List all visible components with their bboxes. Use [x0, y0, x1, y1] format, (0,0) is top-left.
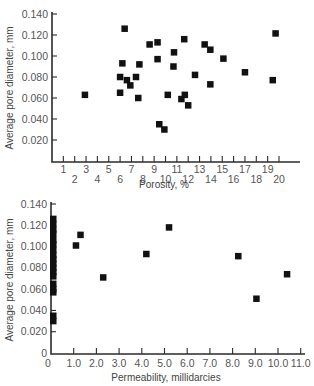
data-point: [270, 77, 277, 84]
data-point: [135, 95, 142, 102]
y-tick-label: 0.020: [22, 134, 48, 146]
data-point: [192, 72, 199, 79]
data-point: [154, 39, 161, 46]
y-tick-label: 0.020: [21, 325, 47, 337]
x-tick-label: 2.0: [89, 357, 104, 369]
x-tick-label: 7: [129, 163, 135, 175]
y-tick-label: 0.060: [22, 92, 48, 104]
x-tick-label: 16: [228, 173, 240, 185]
y-tick-label: 0.040: [22, 113, 48, 125]
porosity-y-axis-label: Average pore diameter, mm: [4, 26, 15, 149]
data-point: [170, 63, 177, 70]
data-point: [146, 41, 153, 48]
permeability-points: [50, 216, 290, 325]
data-point: [50, 318, 57, 325]
y-tick-label: 0.100: [21, 240, 47, 252]
y-tick-label: 0.120: [21, 219, 47, 231]
x-tick-label: 9.0: [248, 357, 263, 369]
porosity-scatter-plot: 0.0200.0400.0600.0800.1000.1200.140 1234…: [4, 8, 300, 191]
x-tick-label: 6: [117, 173, 123, 185]
porosity-x-axis-label: Porosity, %: [139, 179, 189, 190]
x-tick-label: 1: [60, 163, 66, 175]
x-tick-label: 13: [194, 163, 206, 175]
x-tick-label: 4: [94, 173, 100, 185]
data-point: [207, 81, 214, 88]
y-tick-label: 0.140: [21, 198, 47, 210]
porosity-points: [82, 25, 279, 132]
x-tick-label: 8.0: [225, 357, 240, 369]
data-point: [50, 231, 57, 238]
permeability-y-axis-label: Average pore diameter, mm: [4, 218, 15, 341]
x-tick-label: 1.0: [66, 357, 81, 369]
data-point: [143, 251, 150, 258]
y-tick-label: 0.080: [22, 71, 48, 83]
y-tick-label: 0.120: [22, 29, 48, 41]
x-tick-label: 2: [72, 173, 78, 185]
data-point: [117, 74, 124, 81]
data-point: [165, 92, 172, 99]
data-point: [50, 273, 57, 280]
x-tick-label: 11.0: [291, 357, 311, 369]
x-tick-label: 17: [239, 163, 251, 175]
x-tick-label: 0: [45, 357, 51, 369]
permeability-x-ticks: 01.02.03.04.05.06.07.08.09.010.011.0: [45, 348, 311, 369]
x-tick-label: 11: [171, 163, 182, 175]
x-tick-label: 4.0: [134, 357, 149, 369]
data-point: [235, 253, 242, 260]
data-point: [207, 46, 214, 53]
data-point: [220, 55, 227, 62]
x-tick-label: 18: [250, 173, 262, 185]
data-point: [201, 41, 208, 48]
data-point: [272, 30, 279, 37]
data-point: [182, 92, 189, 99]
data-point: [136, 61, 143, 68]
data-point: [242, 69, 249, 76]
permeability-axes: [51, 202, 305, 354]
data-point: [121, 25, 128, 32]
x-tick-label: 20: [273, 173, 285, 185]
y-tick-label: 0.060: [21, 283, 47, 295]
data-point: [127, 82, 134, 89]
data-point: [73, 242, 80, 249]
data-point: [82, 92, 89, 99]
y-tick-label: 0.140: [22, 8, 48, 20]
x-tick-label: 3.0: [112, 357, 127, 369]
data-point: [117, 90, 124, 97]
data-point: [119, 60, 126, 67]
y-tick-label: 0.080: [21, 261, 47, 273]
data-point: [181, 36, 188, 43]
data-point: [161, 126, 168, 133]
x-tick-label: 10.0: [268, 357, 289, 369]
data-point: [185, 102, 192, 109]
x-tick-label: 5: [106, 163, 112, 175]
x-tick-label: 15: [216, 163, 228, 175]
data-point: [133, 74, 140, 81]
permeability-x-axis-label: Permeability, millidarcies: [111, 372, 220, 383]
x-tick-label: 14: [205, 173, 217, 185]
y-tick-label: 0.100: [22, 50, 48, 62]
data-point: [77, 232, 84, 239]
x-tick-label: 19: [262, 163, 274, 175]
x-tick-label: 9: [151, 163, 157, 175]
data-point: [154, 56, 161, 63]
data-point: [284, 271, 291, 278]
porosity-axes: [52, 12, 300, 162]
x-tick-label: 6.0: [180, 357, 195, 369]
data-point: [166, 224, 173, 231]
data-point: [171, 49, 178, 56]
x-tick-label: 7.0: [203, 357, 218, 369]
y-tick-label: 0.040: [21, 304, 47, 316]
permeability-scatter-plot: 00.0200.0400.0600.0800.1000.1200.140 01.…: [4, 198, 311, 384]
data-point: [50, 289, 57, 296]
x-tick-label: 3: [83, 163, 89, 175]
x-tick-label: 5.0: [157, 357, 172, 369]
data-point: [253, 295, 260, 302]
figure: 0.0200.0400.0600.0800.1000.1200.140 1234…: [0, 0, 314, 386]
data-point: [100, 274, 107, 281]
